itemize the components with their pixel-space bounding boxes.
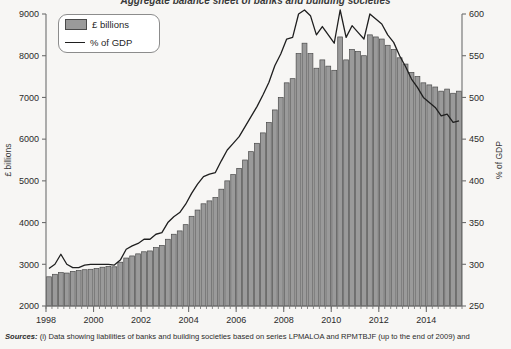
y-axis-left-label: £ billions [3, 143, 13, 176]
legend-label-bars: £ billions [92, 19, 129, 30]
legend-label-line: % of GDP [90, 37, 132, 48]
bar-series [47, 35, 462, 306]
svg-text:2008: 2008 [274, 315, 294, 325]
svg-text:2004: 2004 [179, 315, 199, 325]
svg-text:400: 400 [469, 176, 484, 186]
svg-text:350: 350 [469, 218, 484, 228]
svg-text:550: 550 [469, 51, 484, 61]
svg-text:450: 450 [469, 134, 484, 144]
svg-text:4000: 4000 [19, 218, 39, 228]
legend-item-line: % of GDP [59, 33, 159, 51]
sources-lead: Sources: [5, 332, 38, 341]
svg-text:3000: 3000 [19, 260, 39, 270]
svg-text:2014: 2014 [416, 315, 436, 325]
svg-text:2000: 2000 [84, 315, 104, 325]
svg-text:5000: 5000 [19, 176, 39, 186]
svg-text:300: 300 [469, 260, 484, 270]
svg-text:600: 600 [469, 9, 484, 19]
x-axis-ticks: 199820002002200420062008201020122014 [36, 306, 462, 325]
y-axis-left-ticks: 20003000400050006000700080009000 [19, 9, 46, 311]
sources-body: (i) Data showing liabilities of banks an… [40, 332, 470, 341]
svg-text:7000: 7000 [19, 93, 39, 103]
bar-swatch-icon [65, 19, 87, 30]
y-axis-right-ticks: 250300350400450500550600 [462, 9, 484, 311]
y-axis-right-label: % of GDP [494, 141, 504, 179]
svg-text:6000: 6000 [19, 134, 39, 144]
svg-text:9000: 9000 [19, 9, 39, 19]
svg-text:8000: 8000 [19, 51, 39, 61]
svg-text:2000: 2000 [19, 301, 39, 311]
svg-text:2006: 2006 [226, 315, 246, 325]
legend-item-bars: £ billions [59, 15, 159, 33]
line-swatch-icon [65, 42, 85, 43]
svg-text:2002: 2002 [131, 315, 151, 325]
svg-text:2012: 2012 [369, 315, 389, 325]
chart-legend: £ billions % of GDP [58, 14, 160, 53]
svg-text:500: 500 [469, 93, 484, 103]
sources-note: Sources: (i) Data showing liabilities of… [5, 332, 511, 342]
svg-text:1998: 1998 [36, 315, 56, 325]
svg-text:2010: 2010 [321, 315, 341, 325]
svg-text:250: 250 [469, 301, 484, 311]
